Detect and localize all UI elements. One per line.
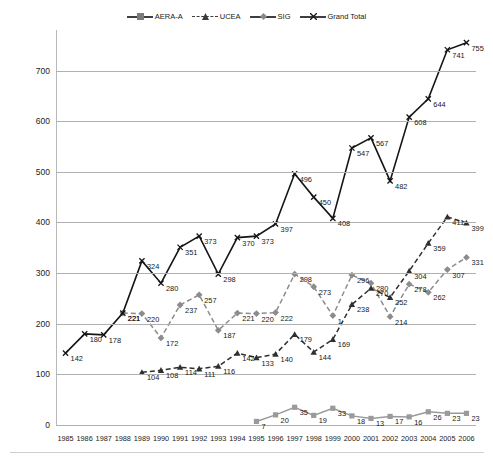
data-label: 111 xyxy=(204,369,215,378)
data-point-aera-a[interactable] xyxy=(311,413,316,418)
gridline-200 xyxy=(56,324,476,325)
data-point-aera-a[interactable] xyxy=(254,419,259,424)
data-label: 13 xyxy=(376,419,384,428)
data-label: 7 xyxy=(261,422,265,431)
legend-label: AERA-A xyxy=(155,12,183,21)
x-axis-tick-label: 1993 xyxy=(210,434,226,443)
data-label: 221 xyxy=(242,314,254,323)
legend-item-sig[interactable]: SIG xyxy=(250,12,291,21)
gridline-300 xyxy=(56,273,476,274)
x-axis-tick-label: 2005 xyxy=(439,434,455,443)
legend-item-grand-total[interactable]: Grand Total xyxy=(300,12,367,21)
y-axis-tick-label: 600 xyxy=(36,116,50,126)
y-axis-tick-label: 500 xyxy=(36,167,50,177)
data-label: 108 xyxy=(166,371,178,380)
data-label: 298 xyxy=(300,275,312,284)
data-label: 496 xyxy=(300,174,312,183)
gridline-500 xyxy=(56,172,476,173)
data-label: 296 xyxy=(357,276,369,285)
data-point-aera-a[interactable] xyxy=(445,411,450,416)
y-axis-tick-label: 0 xyxy=(45,420,50,430)
data-label: 23 xyxy=(452,414,460,423)
data-label: 142 xyxy=(242,354,254,363)
data-point-grand-total[interactable] xyxy=(63,350,68,355)
data-label: 18 xyxy=(357,416,365,425)
data-label: 220 xyxy=(147,314,159,323)
data-label: 238 xyxy=(357,305,369,314)
data-point-aera-a[interactable] xyxy=(464,411,469,416)
x-axis-tick-label: 2001 xyxy=(363,434,379,443)
data-label: 142 xyxy=(71,354,83,363)
data-point-aera-a[interactable] xyxy=(349,413,354,418)
data-label: 567 xyxy=(376,138,388,147)
x-axis-tick-label: 2002 xyxy=(382,434,398,443)
data-point-sig[interactable] xyxy=(444,266,451,273)
data-label: 1 xyxy=(338,316,342,325)
data-point-aera-a[interactable] xyxy=(407,414,412,419)
y-axis-tick-label: 100 xyxy=(36,369,50,379)
data-point-sig[interactable] xyxy=(158,334,165,341)
data-label: 644 xyxy=(433,99,445,108)
data-point-ucea[interactable] xyxy=(444,214,450,220)
data-label: 144 xyxy=(319,353,331,362)
data-point-ucea[interactable] xyxy=(330,336,336,342)
x-axis-tick-label: 1997 xyxy=(287,434,303,443)
data-label: 411 xyxy=(452,217,464,226)
data-label: 214 xyxy=(395,317,407,326)
data-label: 222 xyxy=(281,313,293,322)
legend-item-ucea[interactable]: UCEA xyxy=(192,12,241,21)
data-label: 104 xyxy=(147,373,159,382)
x-axis-tick-label: 1988 xyxy=(115,434,131,443)
data-label: 280 xyxy=(166,284,178,293)
legend-label: UCEA xyxy=(220,12,241,21)
bottom-rule xyxy=(10,452,484,453)
data-label: 114 xyxy=(185,368,197,377)
x-axis-tick-label: 1987 xyxy=(96,434,112,443)
data-label: 608 xyxy=(414,118,426,127)
data-point-aera-a[interactable] xyxy=(387,414,392,419)
gridline-400 xyxy=(56,222,476,223)
data-label: 331 xyxy=(471,258,483,267)
data-point-aera-a[interactable] xyxy=(368,416,373,421)
x-axis-tick-label: 1989 xyxy=(134,434,150,443)
data-point-grand-total[interactable] xyxy=(158,281,163,286)
data-point-aera-a[interactable] xyxy=(426,409,431,414)
chart-legend: AERA-AUCEASIGGrand Total xyxy=(0,12,493,21)
data-point-aera-a[interactable] xyxy=(330,406,335,411)
legend-label: Grand Total xyxy=(328,12,367,21)
data-point-sig[interactable] xyxy=(406,281,413,288)
data-label: 220 xyxy=(261,314,273,323)
data-label: 397 xyxy=(281,224,293,233)
x-axis-tick-label: 2004 xyxy=(420,434,436,443)
data-point-grand-total[interactable] xyxy=(311,195,316,200)
data-point-sig[interactable] xyxy=(177,302,184,309)
legend-marker-dashed-triangle-icon xyxy=(192,12,218,21)
data-label: 278 xyxy=(414,285,426,294)
data-label: 399 xyxy=(471,223,483,232)
data-point-grand-total[interactable] xyxy=(197,234,202,239)
data-point-ucea[interactable] xyxy=(234,350,240,356)
data-label: 221 xyxy=(128,314,140,323)
data-point-sig[interactable] xyxy=(463,254,470,261)
data-point-aera-a[interactable] xyxy=(292,405,297,410)
data-point-sig[interactable] xyxy=(196,291,203,298)
data-point-grand-total[interactable] xyxy=(177,245,182,250)
data-point-sig[interactable] xyxy=(387,313,394,320)
y-axis-tick-label: 400 xyxy=(36,217,50,227)
data-label: 755 xyxy=(471,43,483,52)
legend-item-aera-a[interactable]: AERA-A xyxy=(127,12,183,21)
data-label: 180 xyxy=(90,334,102,343)
data-label: 252 xyxy=(395,298,407,307)
data-label: 257 xyxy=(204,295,216,304)
series-line-ucea xyxy=(142,217,467,372)
data-point-ucea[interactable] xyxy=(291,331,297,337)
data-label: 351 xyxy=(185,248,197,257)
gridline-700 xyxy=(56,71,476,72)
data-point-sig[interactable] xyxy=(329,312,336,319)
x-axis-tick-label: 1992 xyxy=(191,434,207,443)
data-label: 133 xyxy=(261,358,273,367)
data-point-aera-a[interactable] xyxy=(273,412,278,417)
data-label: 19 xyxy=(319,416,327,425)
data-label: 324 xyxy=(147,261,159,270)
data-label: 280 xyxy=(376,284,388,293)
